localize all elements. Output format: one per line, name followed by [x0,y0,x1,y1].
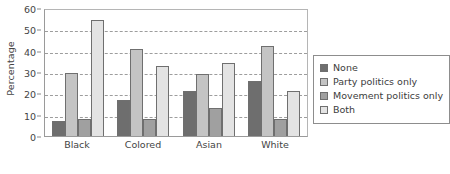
y-axis-tick-label: 40 [24,46,36,57]
legend-swatch-icon [320,78,328,86]
bar[interactable] [261,46,274,136]
legend-item-label: Movement politics only [333,91,443,101]
bar[interactable] [52,121,65,136]
bar[interactable] [117,100,130,136]
x-axis-tick-label: Black [44,139,110,157]
y-axis-tick-label: 30 [24,68,36,79]
y-axis-tick-mark [37,94,41,95]
legend-item[interactable]: Party politics only [320,75,443,89]
bar[interactable] [143,119,156,136]
x-axis-tick-label: White [242,139,308,157]
y-axis-tick-mark [37,51,41,52]
y-axis-tick-label: 10 [24,110,36,121]
y-axis-tick-mark [37,9,41,10]
bar-group [176,10,242,136]
y-axis-tick-label: 50 [24,25,36,36]
x-axis-tick-label: Colored [110,139,176,157]
legend-item-label: Both [333,105,355,115]
y-axis-tick-mark [37,73,41,74]
bar[interactable] [78,119,91,136]
legend-item[interactable]: Movement politics only [320,89,443,103]
plot-area [44,9,308,137]
y-axis-tick-label: 60 [24,4,36,15]
legend-item[interactable]: Both [320,103,443,117]
bar-group [242,10,308,136]
y-axis-tick-label: 20 [24,89,36,100]
bar-group [111,10,177,136]
y-axis-tick-mark [37,137,41,138]
bar[interactable] [209,108,222,136]
y-axis-tick-mark [37,115,41,116]
bar[interactable] [130,49,143,136]
y-axis-tick-mark [37,30,41,31]
x-axis-tick-labels: BlackColoredAsianWhite [44,139,308,157]
legend-item-label: None [333,63,358,73]
legend-swatch-icon [320,92,328,100]
bar[interactable] [196,74,209,136]
bar[interactable] [156,66,169,136]
bar[interactable] [287,91,300,136]
bar-groups [45,10,307,136]
x-axis-tick-label: Asian [176,139,242,157]
bar[interactable] [274,119,287,136]
bar[interactable] [248,81,261,136]
bar[interactable] [222,63,235,136]
bar[interactable] [65,73,78,136]
legend-item[interactable]: None [320,61,443,75]
legend-swatch-icon [320,64,328,72]
bar[interactable] [91,20,104,136]
y-axis-title-text: Percentage [5,41,16,95]
bar[interactable] [183,91,196,136]
legend-item-label: Party politics only [333,77,417,87]
y-axis-tick-labels: 0102030405060 [16,0,40,137]
legend-swatch-icon [320,106,328,114]
y-axis-tick-label: 0 [30,132,36,143]
chart-legend: NoneParty politics onlyMovement politics… [313,55,450,124]
bar-group [45,10,111,136]
